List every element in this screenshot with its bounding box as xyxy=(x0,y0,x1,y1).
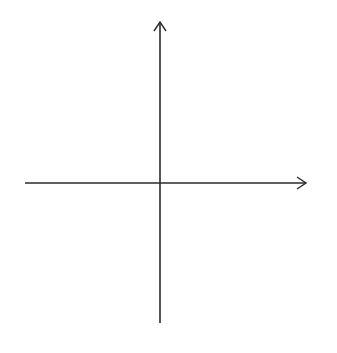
coordinate-plane xyxy=(0,0,337,353)
axes xyxy=(25,22,306,323)
